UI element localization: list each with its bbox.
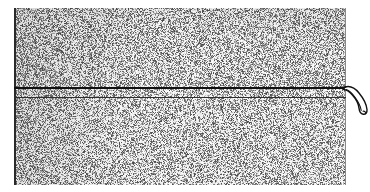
upper-horizontal-rule — [14, 87, 346, 89]
figure-canvas — [0, 0, 370, 192]
lower-horizontal-rule — [14, 97, 346, 98]
hook-curl-terminus — [336, 80, 370, 118]
hook-tail-path — [340, 87, 346, 88]
hook-outline-path — [343, 87, 367, 115]
